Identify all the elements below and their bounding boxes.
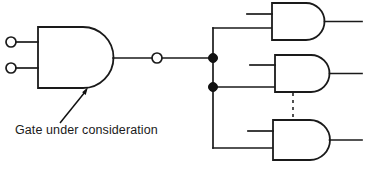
load-gate-1 [247,3,362,40]
annotation-callout: Gate under consideration [15,87,158,137]
driving-gate-input-terminal-2[interactable] [6,63,16,73]
driving-gate-input-terminal-1[interactable] [6,37,16,47]
load-gate-3-body [273,120,330,160]
junction-dot-lower [209,83,218,92]
callout-leader-line [60,92,85,123]
annotation-caption: Gate under consideration [15,123,158,137]
figure-canvas: Gate under consideration [0,0,368,175]
fanout-bus [209,28,276,148]
junction-dot-upper [209,54,218,63]
load-gate-3 [248,120,362,160]
driving-gate [6,27,213,88]
output-node-probe-icon[interactable] [152,53,162,63]
load-gate-1-body [272,3,325,40]
logic-circuit-diagram: Gate under consideration [0,0,368,175]
driving-gate-body [38,27,113,88]
load-gate-2-body [275,55,329,92]
